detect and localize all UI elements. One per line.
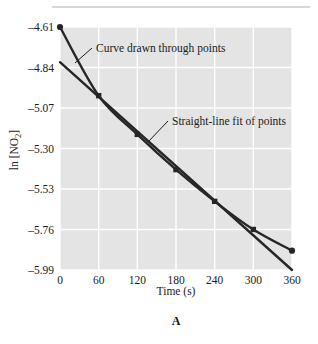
panel-letter-label: A — [172, 314, 181, 328]
y-axis-tick-label: –4.84 — [27, 62, 54, 74]
y-axis-title-base: ln [NO — [8, 138, 20, 170]
data-point-marker — [289, 248, 295, 254]
data-point-marker — [173, 167, 178, 172]
y-axis-tick-label: –5.99 — [27, 264, 54, 276]
x-axis-tick-label: 60 — [93, 274, 105, 286]
x-axis-tick-label: 300 — [245, 274, 263, 286]
line-annotation-label: Straight-line fit of points — [172, 115, 287, 128]
y-axis-tick-label: –5.30 — [27, 143, 54, 155]
y-axis-tick-labels: –4.61–4.84–5.07–5.30–5.53–5.76–5.99 — [27, 21, 54, 276]
x-axis-tick-label: 0 — [57, 274, 63, 286]
x-axis-tick-label: 240 — [206, 274, 224, 286]
x-axis-tick-label: 120 — [129, 274, 147, 286]
data-point-marker — [251, 227, 256, 232]
x-axis-title: Time (s) — [157, 285, 196, 298]
curve-annotation-label: Curve drawn through points — [96, 42, 226, 55]
figure-container: –4.61–4.84–5.07–5.30–5.53–5.76–5.99 0601… — [0, 0, 318, 344]
y-axis-tick-label: –5.07 — [27, 102, 54, 114]
y-axis-tick-label: –5.53 — [27, 183, 54, 195]
chart-canvas: –4.61–4.84–5.07–5.30–5.53–5.76–5.99 0601… — [0, 0, 318, 344]
y-axis-tick-label: –4.61 — [27, 21, 54, 33]
x-axis-tick-label: 360 — [283, 274, 301, 286]
data-point-marker — [57, 24, 63, 30]
data-point-marker — [212, 199, 217, 204]
y-axis-title: ln [NO2] — [8, 130, 23, 170]
y-axis-tick-label: –5.76 — [27, 224, 54, 236]
data-point-marker — [96, 93, 101, 98]
data-point-marker — [135, 132, 140, 137]
y-axis-title-close: ] — [8, 130, 20, 134]
